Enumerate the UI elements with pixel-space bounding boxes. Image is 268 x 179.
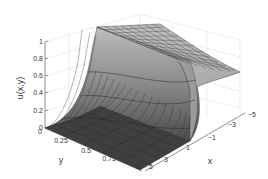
svg-text:−3: −3	[228, 121, 236, 128]
svg-text:5: 5	[149, 163, 153, 170]
z-tick-marks	[45, 41, 48, 128]
svg-text:0: 0	[38, 128, 42, 135]
svg-text:0.4: 0.4	[33, 89, 43, 96]
x-axis-label: x	[208, 156, 213, 166]
svg-text:1: 1	[186, 144, 190, 151]
svg-text:0.25: 0.25	[54, 137, 68, 144]
svg-text:1: 1	[136, 163, 140, 170]
svg-text:0.8: 0.8	[33, 55, 43, 62]
svg-text:1: 1	[39, 38, 43, 45]
svg-text:0.75: 0.75	[102, 155, 116, 162]
y-axis-label: y	[59, 155, 64, 165]
surface-plot: 0 0.2 0.4 0.6 0.8 1 u(x,y) 0 0.25 0.5 0.…	[0, 0, 268, 179]
svg-text:−5: −5	[248, 111, 256, 118]
z-tick-labels: 0 0.2 0.4 0.6 0.8 1	[33, 38, 43, 131]
svg-text:0.5: 0.5	[81, 147, 91, 154]
z-axis-label: u(x,y)	[15, 77, 25, 100]
svg-text:0.6: 0.6	[33, 72, 43, 79]
surface	[45, 24, 240, 170]
svg-text:3: 3	[164, 156, 168, 163]
svg-text:−1: −1	[208, 134, 216, 141]
svg-text:0.2: 0.2	[33, 107, 43, 114]
